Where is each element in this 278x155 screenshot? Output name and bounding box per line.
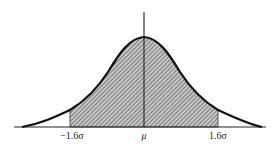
normal-curve-diagram	[0, 0, 278, 155]
label-minus-1-6-sigma: −1.6σ	[60, 130, 84, 141]
label-plus-1-6-sigma: 1.6σ	[209, 130, 227, 141]
label-mu: μ	[141, 130, 146, 141]
